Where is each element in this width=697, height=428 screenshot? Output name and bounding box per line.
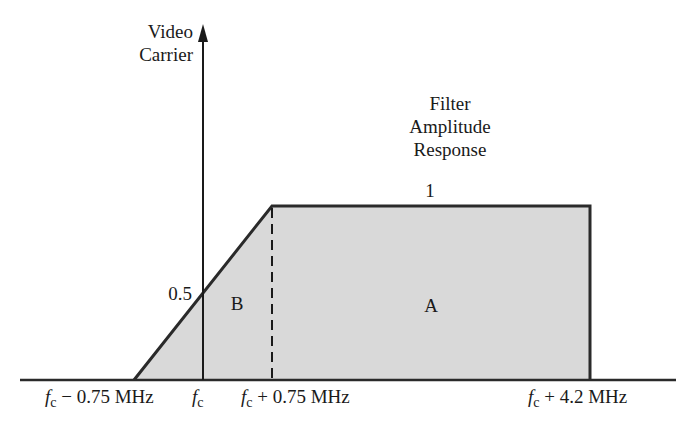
- y-axis-label-line1: Video: [128, 21, 193, 43]
- x-tick-fc-plus-42: fc + 4.2 MHz: [528, 386, 627, 414]
- region-b-label: B: [226, 293, 248, 315]
- title-line2: Amplitude: [380, 116, 520, 138]
- level-full-label: 1: [420, 180, 440, 202]
- x-tick-fc-plus-075: fc + 0.75 MHz: [241, 386, 350, 414]
- axis-arrowhead-icon: [198, 24, 208, 42]
- x-tick-fc-minus-075: fc − 0.75 MHz: [45, 386, 154, 414]
- title-line1: Filter: [380, 93, 520, 115]
- filter-response-diagram: [0, 0, 697, 428]
- level-half-label: 0.5: [150, 283, 192, 305]
- title-line3: Response: [380, 139, 520, 161]
- y-axis-label-line2: Carrier: [118, 44, 193, 66]
- region-a-label: A: [420, 295, 442, 317]
- x-tick-fc: fc: [192, 386, 204, 414]
